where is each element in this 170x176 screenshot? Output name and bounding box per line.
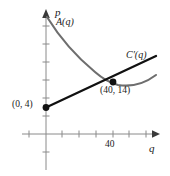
plot-canvas bbox=[0, 0, 170, 176]
point-label-intersection: (40, 14) bbox=[100, 86, 130, 96]
x-axis-arrowhead bbox=[152, 130, 160, 138]
graph-figure: p q A(q) C′(q) (40, 14) (0, 4) 40 bbox=[0, 0, 170, 176]
curve-label-average-cost: A(q) bbox=[56, 17, 74, 27]
curve-marginal-cost bbox=[46, 56, 156, 108]
point-label-y-intercept: (0, 4) bbox=[12, 100, 33, 110]
point-y-intercept bbox=[43, 104, 50, 111]
x-axis-label: q bbox=[149, 143, 155, 154]
x-axis-tick-label-40: 40 bbox=[105, 140, 115, 150]
axes-group bbox=[22, 9, 160, 170]
y-axis-arrowhead bbox=[42, 9, 50, 18]
curve-label-marginal-cost: C′(q) bbox=[126, 50, 147, 60]
